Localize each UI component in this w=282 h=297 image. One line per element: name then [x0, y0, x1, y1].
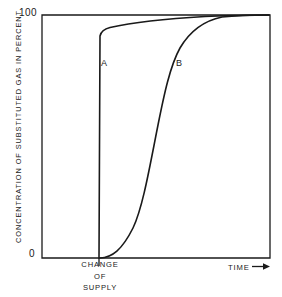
curve-b-label: B [176, 58, 183, 68]
time-arrow-icon [252, 263, 270, 269]
plot-area [0, 0, 282, 297]
curve-b [100, 15, 269, 258]
x-axis-label: TIME [228, 263, 250, 272]
chart-figure: CONCENTRATION OF SUBSTITUTED GAS IN PERC… [0, 0, 282, 297]
curve-a-label: A [101, 58, 108, 68]
curve-a [99, 15, 269, 258]
change-of-supply-caption: CHANGE OF SUPPLY [57, 259, 143, 294]
change-of-supply-line-1: CHANGE [57, 259, 143, 271]
change-of-supply-line-3: SUPPLY [57, 282, 143, 294]
change-of-supply-line-2: OF [57, 271, 143, 283]
